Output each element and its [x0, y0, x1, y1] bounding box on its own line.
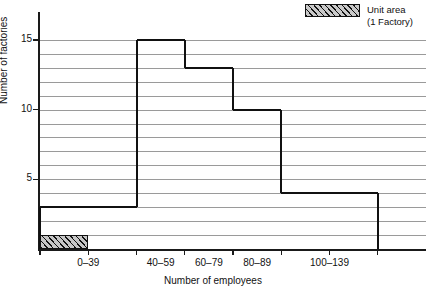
gridline — [40, 40, 426, 41]
gridline — [40, 165, 426, 166]
x-tick-mark — [88, 249, 89, 255]
histogram-chart: Unit area (1 Factory) Number of factorie… — [0, 0, 426, 295]
y-tick-mark — [33, 39, 40, 40]
histogram-bar-edge — [136, 40, 138, 207]
x-tick-mark — [281, 249, 282, 255]
x-tick-label: 100–139 — [300, 257, 360, 268]
gridline — [40, 221, 426, 222]
plot-area: 0–3940–5960–7980–89100–139 — [40, 12, 426, 249]
gridline — [40, 137, 426, 138]
unit-area-box — [40, 235, 88, 249]
y-tick-mark — [33, 179, 40, 180]
y-tick-label: 15 — [0, 33, 32, 44]
gridline — [40, 235, 426, 236]
histogram-bar-top — [40, 206, 137, 208]
x-tick-mark — [232, 249, 233, 255]
gridline — [40, 54, 426, 55]
x-tick-label: 0–39 — [58, 257, 118, 268]
histogram-bar-edge — [377, 193, 379, 249]
histogram-bar-top — [185, 67, 233, 69]
y-axis-title: Number of factories — [0, 17, 9, 104]
histogram-bar-top — [281, 192, 378, 194]
y-tick-label: 5 — [0, 172, 32, 183]
histogram-bar-edge — [184, 40, 186, 68]
x-axis-title: Number of employees — [0, 275, 426, 286]
x-tick-label: 80–89 — [227, 257, 287, 268]
x-tick-mark — [39, 249, 40, 255]
y-tick-mark — [33, 109, 40, 110]
gridline — [40, 151, 426, 152]
x-tick-mark — [136, 249, 137, 255]
histogram-bar-top — [233, 109, 281, 111]
y-tick-label: 10 — [0, 103, 32, 114]
gridline — [40, 179, 426, 180]
x-tick-mark — [184, 249, 185, 255]
histogram-bar-top — [137, 39, 185, 41]
x-tick-mark — [329, 249, 330, 255]
x-tick-mark — [377, 249, 378, 255]
gridline — [40, 124, 426, 125]
histogram-bar-edge — [280, 110, 282, 194]
histogram-bar-edge — [232, 68, 234, 110]
